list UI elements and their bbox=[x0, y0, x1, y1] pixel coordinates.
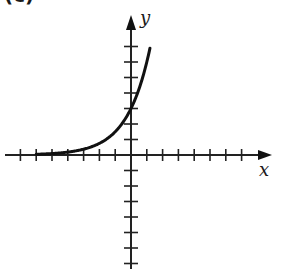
y-axis-label: y bbox=[139, 7, 151, 28]
graph-panel: (c) y x bbox=[0, 0, 290, 269]
axes bbox=[5, 15, 272, 269]
y-axis-arrow-icon bbox=[126, 15, 136, 30]
panel-label: (c) bbox=[4, 0, 34, 7]
x-axis-label: x bbox=[259, 159, 269, 180]
exponential-curve bbox=[36, 48, 150, 154]
